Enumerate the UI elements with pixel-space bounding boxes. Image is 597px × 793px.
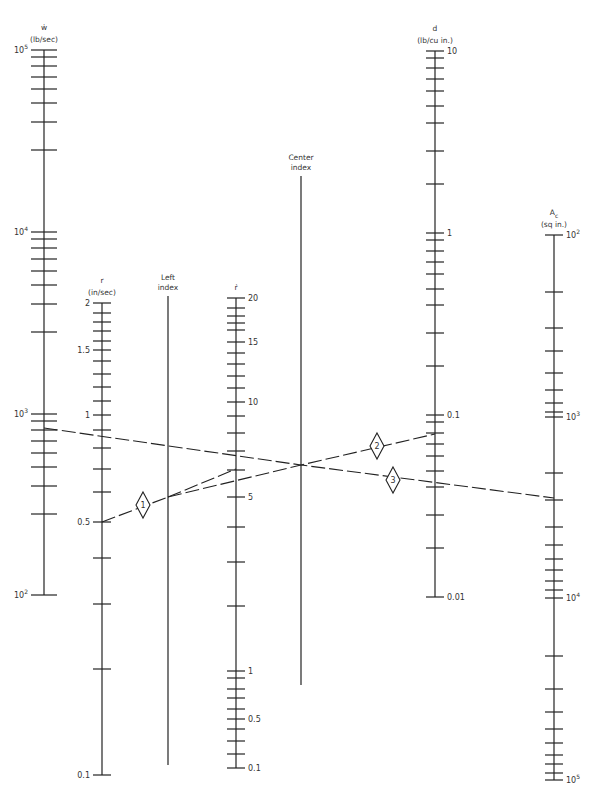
- axis-symbol: ṙ: [234, 283, 238, 292]
- tick-label: 20: [248, 294, 258, 303]
- tick-label: 0.1: [447, 411, 460, 420]
- axis-symbol: ẇ: [41, 23, 47, 32]
- axis-d: 1010.10.01d(lb/cu in.): [417, 24, 465, 602]
- index-title: index: [158, 283, 179, 292]
- dashed-line: [102, 497, 168, 522]
- tick-label: 0.01: [447, 593, 465, 602]
- tick-label: 103: [566, 410, 580, 422]
- axis-unit: (sq in.): [541, 220, 567, 229]
- index-title: Left: [161, 273, 175, 282]
- tick-label: 0.1: [77, 771, 90, 780]
- axis-symbol: r: [100, 276, 104, 285]
- axis-A-c: 102103104105Ac(sq in.): [541, 208, 580, 785]
- tick-label: 0.5: [248, 715, 261, 724]
- tick-label: 103: [14, 407, 28, 419]
- tick-label: 10: [447, 47, 457, 56]
- tick-label: 104: [566, 591, 580, 603]
- step-number: 1: [140, 501, 145, 510]
- axis-unit: (lb/cu in.): [417, 36, 453, 45]
- solution-line-3: 3: [44, 428, 554, 498]
- tick-label: 1: [248, 667, 253, 676]
- tick-label: 0.5: [77, 518, 90, 527]
- tick-label: 102: [566, 228, 580, 240]
- axis-symbol: Ac: [550, 208, 558, 219]
- tick-label: 0.1: [248, 764, 261, 773]
- tick-label: 105: [14, 43, 28, 55]
- tick-label: 104: [14, 225, 28, 237]
- tick-label: 1: [447, 229, 452, 238]
- tick-label: 2: [85, 299, 90, 308]
- tick-label: 1: [85, 411, 90, 420]
- tick-label: 5: [248, 493, 253, 502]
- tick-label: 15: [248, 338, 258, 347]
- dashed-line: [44, 428, 554, 498]
- axis-unit: (in/sec): [88, 288, 116, 297]
- step-number: 2: [374, 442, 379, 451]
- index-title: Center: [288, 153, 314, 162]
- tick-label: 10: [248, 398, 258, 407]
- solution-line-1: 1: [102, 492, 168, 522]
- axis-unit: (lb/sec): [30, 35, 58, 44]
- axis-r: 21.510.50.1r(in/sec): [77, 276, 116, 780]
- tick-label: 1.5: [77, 346, 90, 355]
- tick-label: 105: [566, 773, 580, 785]
- axis-center-index: Centerindex: [288, 153, 314, 685]
- step-number: 3: [390, 476, 395, 485]
- nomograph: 105104103102ẇ(lb/sec)21.510.50.1r(in/sec…: [0, 0, 597, 793]
- axis-symbol: d: [433, 24, 438, 33]
- axis-w-dot: 105104103102ẇ(lb/sec): [14, 23, 58, 600]
- axis-r-dot: 201510510.50.1ṙ: [227, 283, 261, 773]
- index-title: index: [291, 163, 312, 172]
- axis-left-index: Leftindex: [158, 273, 179, 765]
- tick-label: 102: [14, 588, 28, 600]
